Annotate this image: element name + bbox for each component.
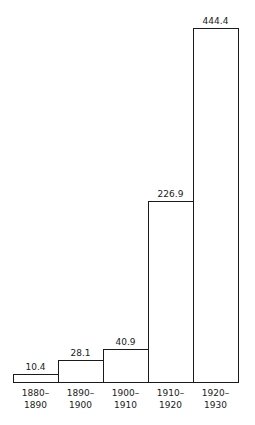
bar xyxy=(193,28,239,383)
bar-value-label: 444.4 xyxy=(193,16,238,26)
bar-value-label: 40.9 xyxy=(103,337,148,347)
bar-chart: 10.41880– 189028.11890– 190040.91900– 19… xyxy=(0,0,255,425)
bar-value-label: 226.9 xyxy=(148,189,193,199)
category-label: 1880– 1890 xyxy=(13,387,58,411)
bar xyxy=(58,360,104,383)
category-label: 1890– 1900 xyxy=(58,387,103,411)
category-label: 1900– 1910 xyxy=(103,387,148,411)
bar-value-label: 28.1 xyxy=(58,348,103,358)
bar xyxy=(148,201,194,383)
category-label: 1920– 1930 xyxy=(193,387,238,411)
bar xyxy=(103,349,149,383)
category-label: 1910– 1920 xyxy=(148,387,193,411)
bar-value-label: 10.4 xyxy=(13,362,58,372)
bar xyxy=(13,374,59,383)
